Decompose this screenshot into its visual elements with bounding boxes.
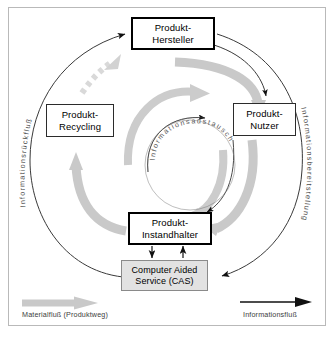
material-arrow-instandhalter-to-recycling	[69, 152, 126, 231]
arc-label-right: Informationsbereitstellung	[299, 106, 314, 222]
node-produkt-hersteller[interactable]: Produkt- Hersteller	[131, 17, 215, 50]
diagram-figure: Informationsrückfluß Informationsbereits…	[0, 0, 335, 337]
node-instandhalter-line1: Produkt-	[152, 217, 189, 229]
node-recycling-line2: Recycling	[59, 121, 101, 133]
node-recycling-line1: Produkt-	[62, 109, 99, 121]
node-instandhalter-line2: Instandhalter	[142, 229, 198, 241]
node-cas-line1: Computer Aided	[132, 265, 198, 276]
node-nutzer-line2: Nutzer	[250, 120, 279, 132]
info-arc-left-rueckfluss	[30, 34, 125, 277]
material-arrow-recycling-to-hersteller-dashed	[82, 54, 121, 93]
arc-label-left: Informationsrückfluß	[18, 117, 35, 208]
legend-material-flow-label: Materialfluß (Produktweg)	[22, 310, 108, 319]
node-produkt-recycling[interactable]: Produkt- Recycling	[46, 104, 114, 137]
material-flow-group	[69, 54, 266, 236]
node-produkt-instandhalter[interactable]: Produkt- Instandhalter	[128, 212, 212, 245]
legend-material-arrow	[22, 297, 98, 310]
node-hersteller-line2: Hersteller	[152, 34, 194, 46]
legend-information-arrow	[240, 297, 312, 307]
node-computer-aided-service[interactable]: Computer Aided Service (CAS)	[121, 260, 208, 291]
legend-group	[22, 297, 312, 310]
node-produkt-nutzer[interactable]: Produkt- Nutzer	[233, 103, 296, 136]
node-cas-line2: Service (CAS)	[135, 276, 193, 287]
node-nutzer-line1: Produkt-	[246, 108, 283, 120]
legend-information-flow-label: Informationsfluß	[243, 310, 297, 319]
node-hersteller-line1: Produkt-	[155, 22, 192, 34]
